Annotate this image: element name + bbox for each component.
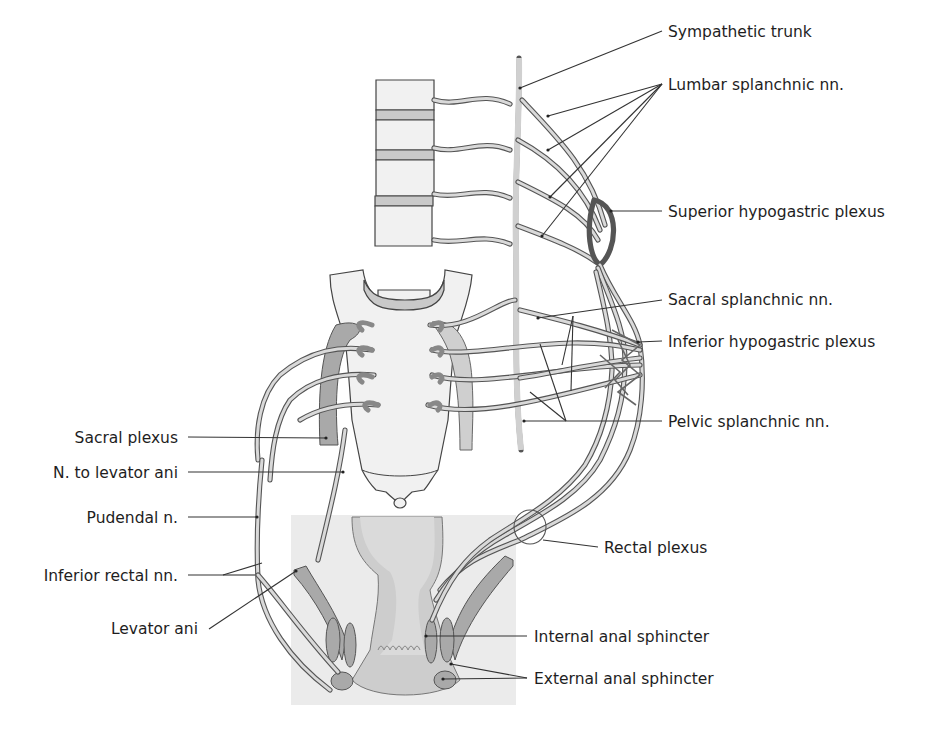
label-inferior-rectal-nn: Inferior rectal nn. (44, 567, 178, 585)
label-pudendal-n: Pudendal n. (87, 509, 178, 527)
external-sphincter-left (331, 672, 353, 690)
label-superior-hypogastric-plexus: Superior hypogastric plexus (668, 203, 885, 221)
external-sphincter-left-sup (344, 623, 356, 667)
label-sacral-plexus: Sacral plexus (75, 429, 178, 447)
label-sacral-splanchnic-nn: Sacral splanchnic nn. (668, 291, 833, 309)
pelvic-innervation-diagram: Sympathetic trunk Lumbar splanchnic nn. … (0, 0, 931, 741)
label-lumbar-splanchnic-nn: Lumbar splanchnic nn. (668, 76, 844, 94)
label-levator-ani: Levator ani (111, 620, 198, 638)
external-sphincter-right-sup (440, 618, 454, 662)
internal-sphincter-right (425, 619, 437, 663)
vertebral-column (330, 80, 472, 508)
label-sympathetic-trunk: Sympathetic trunk (668, 23, 812, 41)
lumbar-rami (434, 98, 510, 244)
label-n-to-levator-ani: N. to levator ani (53, 464, 178, 482)
label-inferior-hypogastric-plexus: Inferior hypogastric plexus (668, 333, 875, 351)
label-pelvic-splanchnic-nn: Pelvic splanchnic nn. (668, 413, 830, 431)
external-sphincter-right (434, 671, 456, 689)
sympathetic-trunk-nerve (516, 58, 521, 450)
internal-sphincter-left (326, 618, 340, 662)
label-internal-anal-sphincter: Internal anal sphincter (534, 628, 710, 646)
label-rectal-plexus: Rectal plexus (604, 539, 707, 557)
label-external-anal-sphincter: External anal sphincter (534, 670, 714, 688)
